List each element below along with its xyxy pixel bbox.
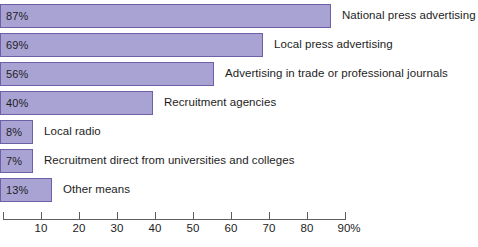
bar-category-label: Other means xyxy=(52,178,130,202)
bar-row: 40% Recruitment agencies xyxy=(0,91,276,115)
bar-local-radio: 8% xyxy=(0,120,33,144)
axis-tick xyxy=(345,212,346,220)
bar-recruitment-agencies: 40% xyxy=(0,91,153,115)
bar-row: 7% Recruitment direct from universities … xyxy=(0,149,294,173)
bar-category-label: Recruitment direct from universities and… xyxy=(33,149,294,173)
axis-tick xyxy=(307,212,308,220)
axis-tick-label: 20 xyxy=(73,223,86,235)
axis-tick xyxy=(269,212,270,220)
bar-row: 56% Advertising in trade or professional… xyxy=(0,62,448,86)
axis-tick-label: 90% xyxy=(337,223,360,235)
axis-tick-label: 40 xyxy=(149,223,162,235)
bar-value-label: 8% xyxy=(1,127,22,138)
bar-row: 69% Local press advertising xyxy=(0,33,393,57)
bar-category-label: Local press advertising xyxy=(263,33,393,57)
bar-chart: 87% National press advertising 69% Local… xyxy=(0,0,478,247)
bar-local-press-advertising: 69% xyxy=(0,33,263,57)
x-axis: 10 20 30 40 50 60 70 80 90% xyxy=(0,205,478,247)
axis-tick xyxy=(193,212,194,220)
bar-row: 8% Local radio xyxy=(0,120,101,144)
bar-other-means: 13% xyxy=(0,178,52,202)
bar-value-label: 7% xyxy=(1,156,22,167)
axis-tick xyxy=(231,212,232,220)
axis-tick-label: 50 xyxy=(187,223,200,235)
bar-recruitment-direct-universities-colleges: 7% xyxy=(0,149,33,173)
axis-tick-label: 10 xyxy=(35,223,48,235)
axis-tick xyxy=(79,212,80,220)
axis-tick xyxy=(155,212,156,220)
bar-national-press-advertising: 87% xyxy=(0,4,331,28)
axis-tick xyxy=(117,212,118,220)
axis-tick-label: 80 xyxy=(301,223,314,235)
plot-area: 87% National press advertising 69% Local… xyxy=(0,0,478,205)
axis-tick xyxy=(3,212,4,220)
bar-value-label: 40% xyxy=(1,98,28,109)
bar-row: 87% National press advertising xyxy=(0,4,476,28)
bar-value-label: 13% xyxy=(1,185,28,196)
axis-line xyxy=(3,219,345,220)
bar-category-label: Advertising in trade or professional jou… xyxy=(214,62,448,86)
bar-row: 13% Other means xyxy=(0,178,130,202)
axis-tick xyxy=(41,212,42,220)
bar-value-label: 69% xyxy=(1,40,28,51)
axis-tick-label: 60 xyxy=(225,223,238,235)
bar-category-label: Recruitment agencies xyxy=(153,91,276,115)
axis-tick-label: 30 xyxy=(111,223,124,235)
bar-category-label: National press advertising xyxy=(331,4,476,28)
bar-value-label: 87% xyxy=(1,11,28,22)
bar-advertising-trade-professional-journals: 56% xyxy=(0,62,214,86)
bar-category-label: Local radio xyxy=(33,120,101,144)
bar-value-label: 56% xyxy=(1,69,28,80)
axis-tick-label: 70 xyxy=(263,223,276,235)
